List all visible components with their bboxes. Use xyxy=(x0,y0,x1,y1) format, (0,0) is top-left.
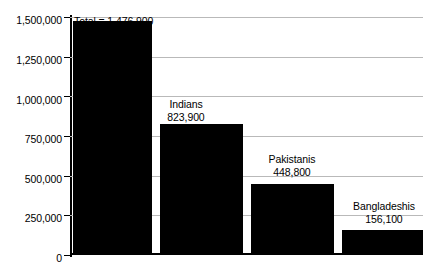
bar-label-total-text: Total = 1,476,900 xyxy=(74,15,153,27)
bar-label-bangladeshis-name: Bangladeshis xyxy=(336,200,432,213)
y-tick-label-1500000: 1,500,000 xyxy=(0,14,62,26)
y-tick-mark-0 xyxy=(64,255,71,256)
bar-indians xyxy=(160,124,243,255)
bar-label-pakistanis-value: 448,800 xyxy=(248,166,336,179)
y-tick-label-750000: 750,000 xyxy=(0,133,62,145)
bar-label-total: Total = 1,476,900 xyxy=(74,15,153,27)
bar-label-indians-name: Indians xyxy=(142,98,230,111)
bar-chart: 1,500,000 1,250,000 1,000,000 750,000 50… xyxy=(0,0,433,274)
y-tick-label-1000000: 1,000,000 xyxy=(0,94,62,106)
bar-total xyxy=(73,21,152,255)
bar-bangladeshis xyxy=(342,230,423,255)
bar-label-pakistanis: Pakistanis 448,800 xyxy=(248,153,336,178)
bar-pakistanis xyxy=(251,184,334,255)
y-tick-label-1250000: 1,250,000 xyxy=(0,54,62,66)
y-tick-label-250000: 250,000 xyxy=(0,212,62,224)
bar-label-pakistanis-name: Pakistanis xyxy=(248,153,336,166)
bar-label-indians: Indians 823,900 xyxy=(142,98,230,123)
bar-label-indians-value: 823,900 xyxy=(142,111,230,124)
y-tick-label-0: 0 xyxy=(0,252,62,264)
y-tick-label-500000: 500,000 xyxy=(0,173,62,185)
bar-label-bangladeshis: Bangladeshis 156,100 xyxy=(336,200,432,225)
bar-label-bangladeshis-value: 156,100 xyxy=(336,213,432,226)
y-axis-labels: 1,500,000 1,250,000 1,000,000 750,000 50… xyxy=(0,0,62,274)
